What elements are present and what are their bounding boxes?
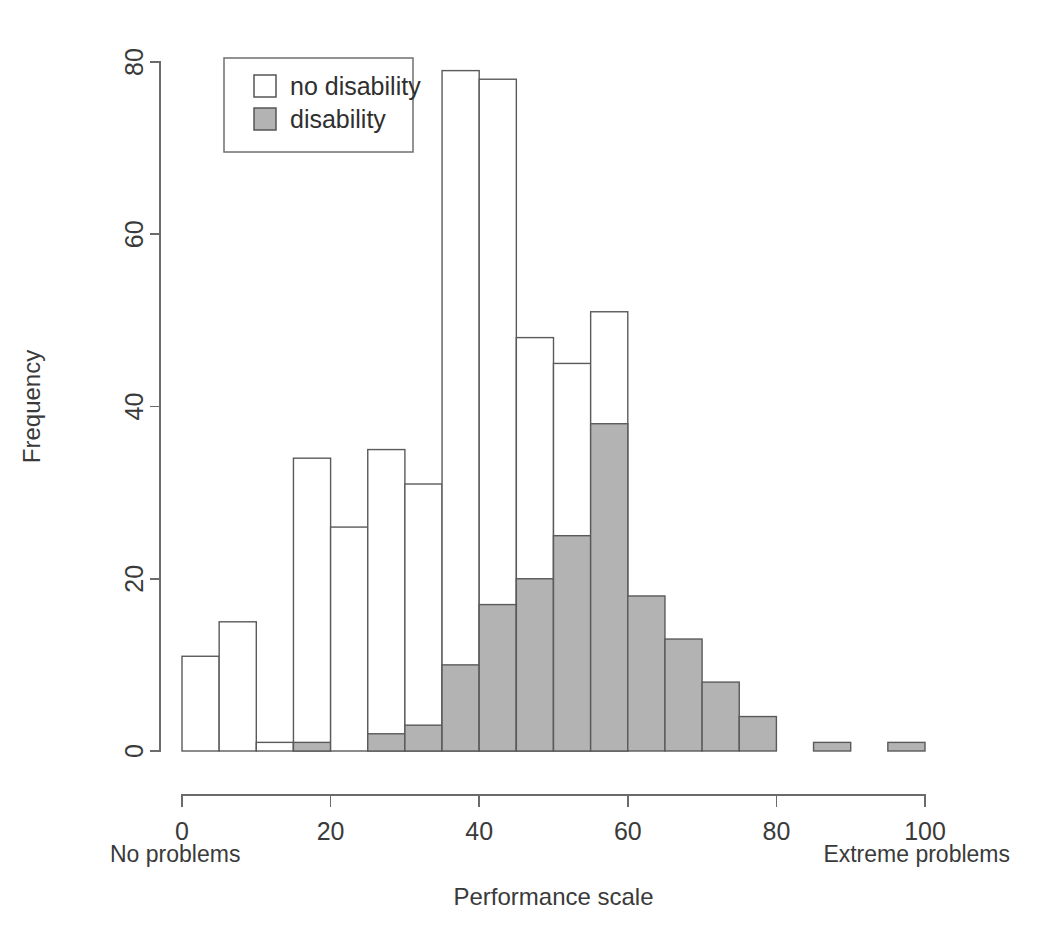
histogram-bar	[293, 458, 330, 751]
histogram-bar	[739, 717, 776, 751]
bar-segment-no-disability	[442, 71, 479, 751]
bar-segment-no-disability	[331, 527, 368, 751]
legend-swatch-no-disability	[254, 75, 276, 97]
histogram-bar	[516, 338, 553, 751]
histogram-bar	[182, 656, 219, 751]
bars-layer	[182, 71, 925, 751]
histogram-bar	[554, 363, 591, 751]
bar-segment-disability	[814, 742, 851, 751]
bar-segment-disability	[293, 742, 330, 751]
histogram-bar	[702, 682, 739, 751]
bar-segment-no-disability	[219, 622, 256, 751]
bar-segment-no-disability	[293, 458, 330, 751]
bar-segment-no-disability	[405, 484, 442, 751]
histogram-bar	[331, 527, 368, 751]
x-tick-label: 20	[317, 817, 345, 845]
legend-label: disability	[290, 105, 386, 133]
histogram-bar	[888, 742, 925, 751]
legend-label: no disability	[290, 72, 421, 100]
x-tick-label: 60	[614, 817, 642, 845]
y-tick-label: 40	[120, 393, 148, 421]
bar-segment-no-disability	[182, 656, 219, 751]
x-tick-label: 80	[762, 817, 790, 845]
bar-segment-disability	[702, 682, 739, 751]
x-tick-label: 40	[465, 817, 493, 845]
bar-segment-disability	[554, 536, 591, 751]
histogram-figure: 020406080020406080100 no disabilitydisab…	[0, 0, 1048, 937]
bar-segment-no-disability	[256, 742, 293, 751]
x-axis-title: Performance scale	[453, 883, 653, 910]
histogram-bar	[591, 312, 628, 751]
y-tick-label: 0	[120, 744, 148, 758]
bar-segment-disability	[405, 725, 442, 751]
bar-segment-disability	[628, 596, 665, 751]
bar-segment-disability	[739, 717, 776, 751]
histogram-bar	[814, 742, 851, 751]
bar-segment-disability	[516, 579, 553, 751]
histogram-bar	[368, 450, 405, 751]
bar-segment-disability	[591, 424, 628, 751]
bar-segment-disability	[888, 742, 925, 751]
y-axis-title: Frequency	[18, 350, 45, 463]
legend-swatch-disability	[254, 108, 276, 130]
x-axis-right-endpoint-label: Extreme problems	[823, 841, 1010, 867]
y-tick-label: 80	[120, 48, 148, 76]
histogram-bar	[256, 742, 293, 751]
bar-segment-no-disability	[368, 450, 405, 751]
histogram-bar	[665, 639, 702, 751]
x-axis-left-endpoint-label: No problems	[110, 841, 240, 867]
x-axis-line	[182, 795, 925, 807]
y-tick-label: 60	[120, 220, 148, 248]
y-tick-label: 20	[120, 565, 148, 593]
bar-segment-disability	[479, 605, 516, 751]
bar-segment-disability	[442, 665, 479, 751]
histogram-bar	[479, 79, 516, 751]
bar-segment-disability	[368, 734, 405, 751]
histogram-svg: 020406080020406080100 no disabilitydisab…	[0, 0, 1048, 937]
legend-layer: no disabilitydisability	[224, 58, 421, 152]
histogram-bar	[628, 596, 665, 751]
histogram-bar	[405, 484, 442, 751]
histogram-bar	[219, 622, 256, 751]
histogram-bar	[442, 71, 479, 751]
bar-segment-disability	[665, 639, 702, 751]
